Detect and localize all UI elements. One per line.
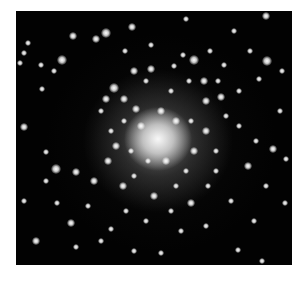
star <box>236 88 242 94</box>
star <box>213 168 219 174</box>
star <box>38 62 44 68</box>
star <box>178 228 184 234</box>
star <box>279 68 285 74</box>
star <box>101 28 111 38</box>
star <box>25 40 31 46</box>
star <box>51 68 57 74</box>
star <box>108 128 114 134</box>
star <box>85 203 91 209</box>
star <box>190 147 198 155</box>
star <box>128 148 134 154</box>
star <box>205 183 211 189</box>
star <box>207 48 213 54</box>
star <box>104 157 112 165</box>
star <box>150 192 158 200</box>
star <box>92 35 100 43</box>
star <box>168 88 174 94</box>
star <box>20 123 28 131</box>
star <box>202 127 210 135</box>
star <box>200 77 208 85</box>
star <box>123 208 129 214</box>
star <box>247 48 253 54</box>
star <box>186 78 192 84</box>
star <box>128 23 136 31</box>
star <box>244 162 252 170</box>
star <box>98 108 104 114</box>
star <box>171 63 177 69</box>
star <box>162 157 170 165</box>
star <box>120 95 128 103</box>
star <box>269 145 277 153</box>
star <box>215 78 221 84</box>
star <box>251 218 257 224</box>
star <box>43 149 49 155</box>
star <box>21 198 27 204</box>
star <box>122 48 128 54</box>
star <box>148 42 154 48</box>
star-cluster-photo: globular star cluster <box>16 11 292 265</box>
star <box>108 226 114 232</box>
star <box>73 244 79 250</box>
star <box>131 173 137 179</box>
star <box>67 219 75 227</box>
star <box>51 164 61 174</box>
star <box>98 238 104 244</box>
star <box>143 218 149 224</box>
star <box>119 182 127 190</box>
star <box>54 200 60 206</box>
star <box>283 156 289 162</box>
star <box>213 148 219 154</box>
star <box>145 158 151 164</box>
star <box>236 123 242 129</box>
star <box>143 78 149 84</box>
star <box>130 67 138 75</box>
star <box>102 95 110 103</box>
star <box>263 183 269 189</box>
star <box>189 55 199 65</box>
star <box>221 62 227 68</box>
star <box>228 198 234 204</box>
star <box>132 105 140 113</box>
star <box>57 55 67 65</box>
star <box>262 56 272 66</box>
star <box>253 138 259 144</box>
star <box>188 118 194 124</box>
star <box>202 97 210 105</box>
star <box>217 93 225 101</box>
star <box>223 113 229 119</box>
star <box>187 199 195 207</box>
star <box>168 208 174 214</box>
star <box>277 108 283 114</box>
star <box>147 65 155 73</box>
star <box>180 52 186 58</box>
star <box>235 247 241 253</box>
star <box>72 168 80 176</box>
star <box>203 223 209 229</box>
star <box>39 86 45 92</box>
star <box>231 28 237 34</box>
star <box>173 183 179 189</box>
star <box>32 237 40 245</box>
star <box>158 250 164 256</box>
star <box>17 60 23 66</box>
star <box>121 118 127 124</box>
star <box>183 168 189 174</box>
star <box>282 200 288 206</box>
star <box>262 12 270 20</box>
star <box>157 107 165 115</box>
star <box>112 142 120 150</box>
star <box>137 122 145 130</box>
star <box>109 83 119 93</box>
star <box>90 177 98 185</box>
star <box>69 32 77 40</box>
star <box>21 50 27 56</box>
star <box>172 117 180 125</box>
star <box>183 16 189 22</box>
star <box>131 248 137 254</box>
star <box>256 76 262 82</box>
star <box>259 258 265 264</box>
star <box>43 178 49 184</box>
